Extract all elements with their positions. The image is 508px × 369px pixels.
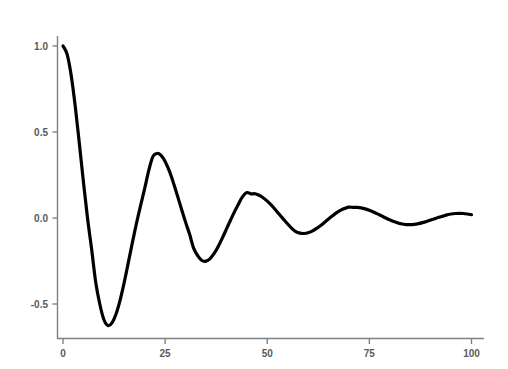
y-tick-label: 1.0 <box>0 41 48 52</box>
y-tick-label: -0.5 <box>0 299 48 310</box>
x-tick-label: 75 <box>364 348 375 359</box>
chart-figure: -0.50.00.51.0 0255075100 <box>0 0 508 369</box>
x-tick-label: 50 <box>262 348 273 359</box>
y-tick-label: 0.5 <box>0 127 48 138</box>
plot-canvas <box>0 0 508 369</box>
y-axis-ticks <box>53 46 58 304</box>
x-tick-label: 25 <box>160 348 171 359</box>
x-tick-label: 100 <box>463 348 480 359</box>
x-tick-label: 0 <box>60 348 66 359</box>
damped-oscillation-curve <box>63 46 472 326</box>
x-axis-ticks <box>63 339 472 345</box>
y-tick-label: 0.0 <box>0 213 48 224</box>
